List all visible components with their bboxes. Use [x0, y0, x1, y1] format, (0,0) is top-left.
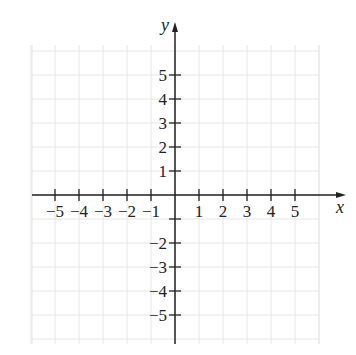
- svg-text:−4: −4: [149, 282, 168, 301]
- svg-text:1: 1: [195, 202, 204, 221]
- svg-text:−1: −1: [142, 202, 160, 221]
- svg-text:1: 1: [159, 162, 168, 181]
- svg-text:2: 2: [159, 138, 168, 157]
- svg-text:5: 5: [159, 66, 168, 85]
- svg-text:−5: −5: [149, 306, 167, 325]
- svg-text:4: 4: [267, 202, 276, 221]
- svg-text:2: 2: [219, 202, 228, 221]
- svg-text:−3: −3: [149, 258, 167, 277]
- svg-text:−3: −3: [94, 202, 112, 221]
- y-axis-label: y: [159, 15, 169, 35]
- coordinate-plane: −5−4−3−2−11234554321−2−3−4−5 x y: [0, 0, 356, 355]
- x-axis-label: x: [335, 197, 344, 217]
- svg-text:−5: −5: [46, 202, 64, 221]
- svg-text:4: 4: [159, 90, 168, 109]
- svg-text:5: 5: [291, 202, 300, 221]
- svg-text:3: 3: [243, 202, 252, 221]
- svg-text:−2: −2: [118, 202, 136, 221]
- svg-text:−2: −2: [149, 234, 167, 253]
- svg-text:3: 3: [159, 114, 168, 133]
- svg-text:−4: −4: [70, 202, 89, 221]
